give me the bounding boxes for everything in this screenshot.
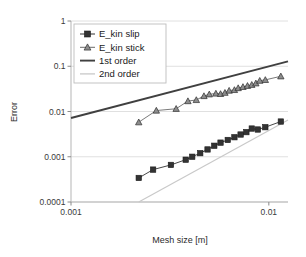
data-point-square xyxy=(225,137,230,142)
y-tick-label: 1 xyxy=(61,16,66,26)
x-tick-label: 0.01 xyxy=(261,207,278,217)
data-point-square xyxy=(190,154,195,159)
data-point-square xyxy=(218,140,223,145)
legend-item-label-3[interactable]: 2nd order xyxy=(99,68,140,79)
y-tick-label: 0.001 xyxy=(44,152,66,162)
y-tick-label: 0.01 xyxy=(49,107,66,117)
y-tick-label: 0.0001 xyxy=(40,197,66,207)
data-point-square xyxy=(238,132,243,137)
data-point-square xyxy=(255,127,260,132)
x-axis-title: Mesh size [m] xyxy=(152,235,208,245)
x-tick-label: 0.001 xyxy=(60,207,82,217)
data-point-square xyxy=(232,135,237,140)
data-point-square xyxy=(168,162,173,167)
data-point-square xyxy=(212,143,217,148)
legend[interactable]: E_kin slipE_kin stick1st order2nd order xyxy=(74,24,166,83)
data-point-square xyxy=(150,167,155,172)
legend-swatch-square xyxy=(85,31,91,37)
data-point-square xyxy=(136,175,141,180)
y-tick-label: 0.1 xyxy=(54,61,66,71)
convergence-chart-figure: 0.00010.0010.010.110.0010.01 Mesh size [… xyxy=(0,0,306,257)
legend-item-label-1[interactable]: E_kin stick xyxy=(99,42,145,53)
data-point-square xyxy=(205,147,210,152)
data-point-square xyxy=(198,150,203,155)
data-point-square xyxy=(278,119,283,124)
data-point-square xyxy=(263,124,268,129)
chart-canvas: 0.00010.0010.010.110.0010.01 Mesh size [… xyxy=(0,0,306,257)
y-axis-title: Error xyxy=(9,102,19,122)
legend-item-label-2[interactable]: 1st order xyxy=(99,55,137,66)
legend-item-label-0[interactable]: E_kin slip xyxy=(99,28,140,39)
data-point-square xyxy=(244,129,249,134)
data-point-square xyxy=(249,126,254,131)
data-point-square xyxy=(183,157,188,162)
